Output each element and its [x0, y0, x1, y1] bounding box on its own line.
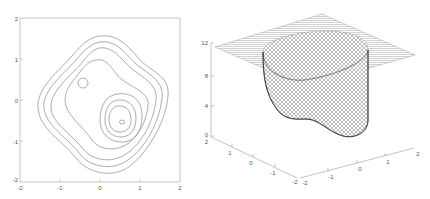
- contour-x-axis: [60, 179, 140, 182]
- contour-x-tick-label: 0: [98, 185, 102, 191]
- contour-x-tick-label: 1: [138, 185, 142, 191]
- contour-y-tick-label: 2: [15, 16, 19, 22]
- surface-z-tick-label: 8: [205, 73, 209, 79]
- surface-x-tick-label: -2: [302, 180, 308, 186]
- contour-lines: [38, 36, 168, 174]
- surface-y-tick-label: 1: [228, 150, 232, 156]
- surface-x-tick-label: 0: [358, 166, 362, 172]
- figure-canvas: -2 -1 0 1 2 2 1 0 -1 -2: [0, 0, 430, 199]
- contour-y-tick-label: -2: [13, 177, 19, 183]
- surface-plot: 12 8 4 0 2 1 0 -1 -2 -2 -1 0 1 2: [201, 14, 420, 186]
- surface-y-tick-label: 0: [249, 160, 253, 166]
- contour-y-tick-label: 0: [15, 98, 19, 104]
- surface-z-tick-label: 12: [201, 40, 208, 46]
- surface-y-tick-label: -1: [270, 170, 276, 176]
- surface-y-tick-label: -2: [292, 179, 298, 185]
- surface-x-tick-label: 1: [386, 159, 390, 165]
- contour-x-tick-label: 2: [178, 185, 182, 191]
- surface-z-tick-label: 4: [205, 103, 209, 109]
- surface-z-tick-label: 0: [205, 132, 209, 138]
- contour-y-tick-label: -1: [13, 139, 19, 145]
- contour-y-axis: [20, 59, 23, 141]
- surface-y-axis: [211, 137, 297, 178]
- contour-x-tick-label: -2: [17, 185, 23, 191]
- surface-y-tick-label: 2: [205, 139, 209, 145]
- contour-y-tick-label: 1: [15, 57, 19, 63]
- surface-x-tick-label: -1: [328, 174, 334, 180]
- contour-global-minimum: [120, 120, 125, 124]
- contour-plot: -2 -1 0 1 2 2 1 0 -1 -2: [13, 16, 183, 191]
- surface-x-tick-label: 2: [416, 151, 420, 157]
- contour-x-tick-label: -1: [57, 185, 63, 191]
- contour-local-minimum: [78, 78, 88, 88]
